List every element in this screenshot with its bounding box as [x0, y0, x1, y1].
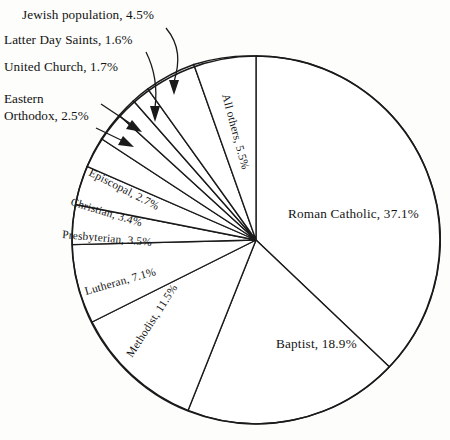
callout-label-eastern-orthodox-line2: Orthodox, 2.5%: [4, 107, 89, 124]
callout-label-latter-day-saints: Latter Day Saints, 1.6%: [4, 31, 133, 48]
slice-label-roman-catholic: Roman Catholic, 37.1%: [288, 206, 419, 221]
callout-label-eastern-orthodox: Eastern Orthodox, 2.5%: [4, 90, 89, 125]
pie-chart-figure: Roman Catholic, 37.1% Baptist, 18.9% Met…: [0, 0, 450, 440]
callout-label-jewish-population: Jewish population, 4.5%: [22, 6, 154, 23]
callout-label-united-church: United Church, 1.7%: [4, 58, 118, 75]
slice-label-baptist: Baptist, 18.9%: [276, 336, 357, 351]
callout-label-eastern-orthodox-line1: Eastern: [4, 90, 89, 107]
